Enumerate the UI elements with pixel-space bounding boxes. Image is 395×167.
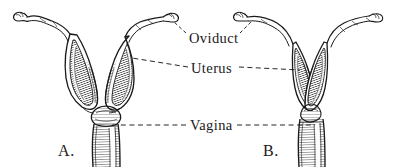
figure-letter-b: B. [263,143,279,159]
specimen-a-right-oviduct [125,13,178,42]
label-oviduct: Oviduct [189,31,239,46]
label-vagina: Vagina [190,118,233,133]
specimen-b-drawing [234,12,383,167]
specimen-a-left-horn [65,34,97,113]
specimen-a-cervix [91,106,120,126]
specimen-a-right-horn [105,36,134,113]
leader-oviduct-left [173,21,186,33]
figure-letter-a: A. [58,143,75,159]
label-uterus: Uterus [191,61,232,76]
specimen-b-right-oviduct [327,14,383,47]
leader-uterus-right [239,67,300,70]
leader-uterus-left [132,58,188,67]
specimen-b-vagina [298,119,325,167]
specimen-b-left-oviduct [234,12,293,46]
leader-oviduct-right [240,21,252,33]
anatomical-figure: Oviduct Uterus Vagina A. B. [0,0,395,167]
specimen-a-drawing [14,12,179,167]
specimen-a-vagina [92,124,120,167]
